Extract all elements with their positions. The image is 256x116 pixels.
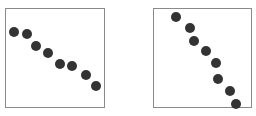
data-point xyxy=(185,23,195,33)
data-point xyxy=(201,46,211,56)
data-point xyxy=(67,61,77,71)
data-point xyxy=(213,74,223,84)
data-point xyxy=(231,99,241,109)
scatter-plot-1 xyxy=(5,8,105,108)
data-point xyxy=(91,81,101,91)
data-point xyxy=(211,58,221,68)
data-point xyxy=(22,29,32,39)
data-point xyxy=(55,59,65,69)
data-point xyxy=(171,12,181,22)
data-point xyxy=(31,41,41,51)
scatter-plot-2 xyxy=(153,8,252,108)
data-point xyxy=(9,27,19,37)
data-point xyxy=(43,48,53,58)
data-point xyxy=(225,86,235,96)
data-point xyxy=(81,70,91,80)
data-point xyxy=(189,36,199,46)
